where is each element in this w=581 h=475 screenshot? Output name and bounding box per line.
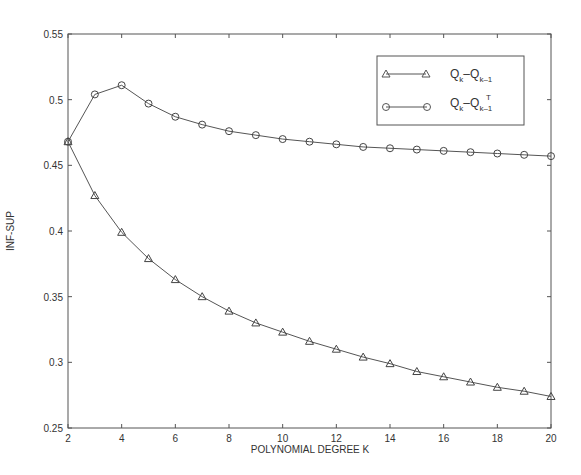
x-tick-label: 6 <box>173 433 179 444</box>
y-tick-label: 0.5 <box>49 95 63 106</box>
x-tick-label: 10 <box>277 433 289 444</box>
x-tick-label: 8 <box>226 433 232 444</box>
chart: 24681012141618200.250.30.350.40.450.50.5… <box>0 0 581 475</box>
y-tick-label: 0.35 <box>44 292 64 303</box>
x-tick-label: 12 <box>331 433 343 444</box>
x-tick-label: 20 <box>545 433 557 444</box>
x-tick-label: 16 <box>438 433 450 444</box>
y-tick-label: 0.25 <box>44 423 64 434</box>
y-axis-label: INF-SUP <box>5 211 16 251</box>
y-tick-label: 0.45 <box>44 160 64 171</box>
x-axis-label: POLYNOMIAL DEGREE K <box>251 444 370 455</box>
y-tick-label: 0.4 <box>49 226 63 237</box>
x-tick-label: 4 <box>119 433 125 444</box>
legend: Qk–Qk–1 Qk–Qk–1 T <box>377 56 524 125</box>
plot-series <box>64 82 555 400</box>
x-tick-label: 14 <box>384 433 396 444</box>
x-tick-label: 18 <box>492 433 504 444</box>
svg-text:T: T <box>486 93 491 102</box>
y-tick-label: 0.3 <box>49 357 63 368</box>
x-tick-label: 2 <box>65 433 71 444</box>
y-tick-label: 0.55 <box>44 29 64 40</box>
series-line <box>68 142 551 397</box>
